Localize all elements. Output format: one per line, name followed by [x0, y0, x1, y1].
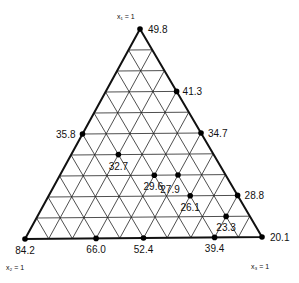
vertex-label-x3: x₃ = 1 — [251, 263, 269, 270]
data-point — [116, 152, 122, 158]
grid-line — [83, 134, 144, 238]
data-point — [141, 235, 147, 241]
grid-line — [37, 218, 49, 239]
point-value-label: 52.4 — [134, 244, 154, 255]
data-point — [187, 193, 193, 199]
ternary-diagram: 49.841.334.728.820.135.884.266.052.439.4… — [0, 0, 299, 283]
grid-line — [49, 50, 153, 239]
grid-line — [94, 112, 189, 113]
data-point — [22, 236, 28, 242]
point-value-label: 23.3 — [216, 222, 236, 233]
data-point — [223, 214, 229, 220]
point-value-label: 27.9 — [160, 184, 180, 195]
grid-line — [106, 91, 177, 92]
grid-line — [37, 216, 250, 218]
vertex-label-x2: x₂ = 1 — [6, 264, 24, 271]
grid-lines — [37, 50, 250, 239]
point-value-label: 34.7 — [208, 128, 228, 139]
grid-line — [83, 133, 202, 134]
point-value-label: 49.8 — [148, 24, 168, 35]
data-point — [93, 236, 99, 242]
point-value-label: 28.8 — [245, 190, 265, 201]
grid-line — [238, 216, 250, 237]
data-point — [137, 26, 143, 32]
data-point — [80, 131, 86, 137]
point-value-label: 41.3 — [183, 86, 203, 97]
data-point — [174, 89, 180, 95]
vertex-label-x1: x₁ = 1 — [117, 13, 135, 20]
point-value-label: 32.7 — [109, 161, 129, 172]
data-point — [152, 172, 158, 178]
data-point — [198, 130, 204, 136]
data-point — [235, 193, 241, 199]
point-value-label: 35.8 — [56, 129, 76, 140]
data-point — [212, 235, 218, 241]
grid-line — [60, 175, 226, 176]
point-value-label: 39.4 — [205, 243, 225, 254]
data-point — [175, 172, 181, 178]
data-point — [259, 234, 265, 240]
point-value-label: 84.2 — [15, 245, 35, 256]
point-value-label: 66.0 — [86, 244, 106, 255]
point-value-label: 20.1 — [270, 232, 290, 243]
point-value-label: 26.1 — [180, 202, 200, 213]
